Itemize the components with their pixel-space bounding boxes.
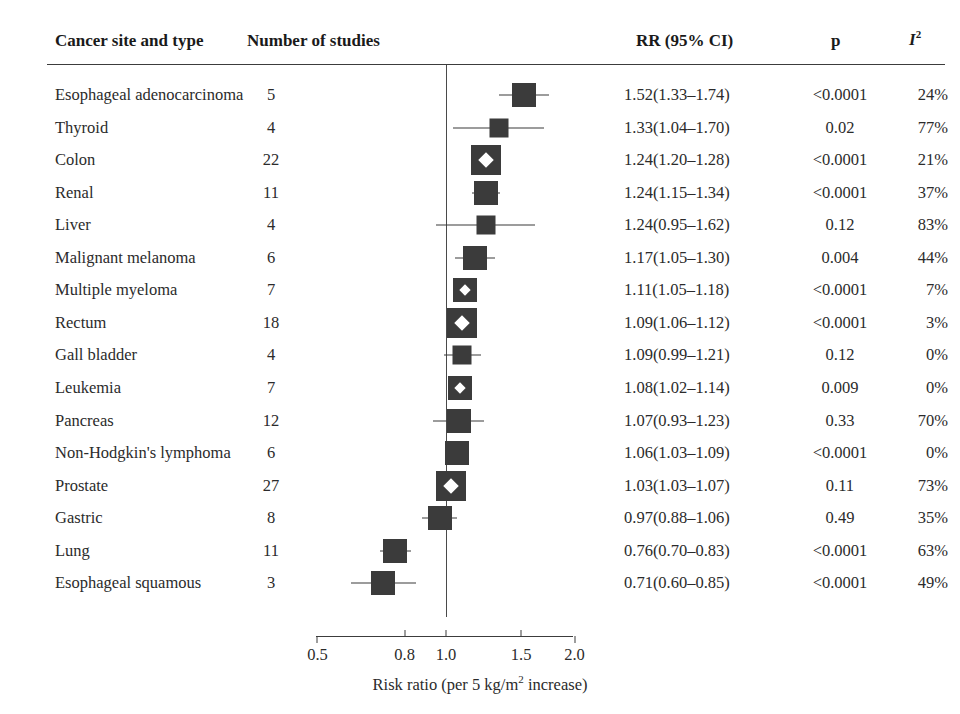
row-p-value: <0.0001 [788,445,892,462]
row-p-value: 0.12 [788,347,892,364]
row-rr-ci-value: 0.97(0.88–1.06) [624,510,788,527]
header-divider-rule [47,64,945,65]
x-axis-tick-label: 0.5 [307,645,328,665]
x-axis-tick [404,630,405,637]
x-axis-caption-pre: Risk ratio (per 5 kg/m [373,675,519,694]
header-number-studies: Number of studies [247,31,380,51]
row-label-cancer-site: Esophageal squamous [55,575,201,592]
point-estimate-marker [489,118,508,137]
point-estimate-marker [512,83,536,107]
row-p-value: <0.0001 [788,315,892,332]
row-rr-ci-value: 1.09(0.99–1.21) [624,347,788,364]
point-estimate-marker [476,216,495,235]
x-axis-tick-label: 1.0 [436,645,457,665]
row-i-squared-value: 49% [890,575,948,592]
row-number-of-studies: 18 [226,315,316,332]
x-axis-caption-post: increase) [524,675,588,694]
row-label-cancer-site: Gall bladder [55,347,137,364]
row-number-of-studies: 6 [226,445,316,462]
row-label-cancer-site: Gastric [55,510,103,527]
row-rr-ci-value: 1.24(1.20–1.28) [624,152,788,169]
row-rr-ci-value: 1.06(1.03–1.09) [624,445,788,462]
row-rr-ci-value: 1.33(1.04–1.70) [624,119,788,136]
x-axis-line [316,636,573,637]
row-rr-ci-value: 0.76(0.70–0.83) [624,542,788,559]
row-rr-ci-value: 1.24(1.15–1.34) [624,184,788,201]
row-i-squared-value: 83% [890,217,948,234]
row-number-of-studies: 12 [226,412,316,429]
row-i-squared-value: 70% [890,412,948,429]
row-p-value: 0.49 [788,510,892,527]
row-i-squared-value: 35% [890,510,948,527]
row-i-squared-value: 77% [890,119,948,136]
row-label-cancer-site: Rectum [55,315,106,332]
row-p-value: 0.004 [788,250,892,267]
point-estimate-marker [474,181,498,205]
row-p-value: <0.0001 [788,152,892,169]
point-estimate-marker [383,539,407,563]
row-label-cancer-site: Leukemia [55,380,121,397]
row-rr-ci-value: 1.09(1.06–1.12) [624,315,788,332]
row-i-squared-value: 37% [890,184,948,201]
row-label-cancer-site: Colon [55,152,95,169]
row-label-cancer-site: Lung [55,542,90,559]
row-rr-ci-value: 1.52(1.33–1.74) [624,87,788,104]
row-label-cancer-site: Esophageal adenocarcinoma [55,87,243,104]
x-axis-tick-label: 2.0 [564,645,585,665]
row-i-squared-value: 24% [890,87,948,104]
row-p-value: 0.02 [788,119,892,136]
x-axis-tick [521,630,522,637]
row-p-value: <0.0001 [788,575,892,592]
row-p-value: 0.009 [788,380,892,397]
row-p-value: <0.0001 [788,87,892,104]
row-number-of-studies: 11 [226,542,316,559]
x-axis-tick-label: 1.5 [511,645,532,665]
row-number-of-studies: 4 [226,217,316,234]
row-label-cancer-site: Prostate [55,477,108,494]
header-rr-ci: RR (95% CI) [636,31,733,51]
header-i-squared: I2 [909,28,921,50]
row-number-of-studies: 7 [226,380,316,397]
row-label-cancer-site: Non-Hodgkin's lymphoma [55,445,231,462]
point-estimate-marker [452,346,471,365]
row-i-squared-value: 73% [890,477,948,494]
row-label-cancer-site: Malignant melanoma [55,250,196,267]
row-number-of-studies: 3 [226,575,316,592]
x-axis-tick [446,630,447,637]
row-label-cancer-site: Pancreas [55,412,114,429]
point-estimate-marker [447,409,471,433]
row-number-of-studies: 6 [226,250,316,267]
row-number-of-studies: 4 [226,119,316,136]
row-i-squared-value: 0% [890,380,948,397]
row-label-cancer-site: Renal [55,184,94,201]
row-p-value: <0.0001 [788,184,892,201]
header-i-squared-letter: I [909,30,916,49]
row-rr-ci-value: 0.71(0.60–0.85) [624,575,788,592]
row-i-squared-value: 63% [890,542,948,559]
forest-plot: Cancer site and type Number of studies R… [0,0,960,714]
row-number-of-studies: 7 [226,282,316,299]
row-label-cancer-site: Thyroid [55,119,108,136]
row-i-squared-value: 44% [890,250,948,267]
point-estimate-marker [445,441,469,465]
row-rr-ci-value: 1.08(1.02–1.14) [624,380,788,397]
x-axis-tick [574,636,575,643]
row-rr-ci-value: 1.11(1.05–1.18) [624,282,788,299]
row-label-cancer-site: Multiple myeloma [55,282,177,299]
row-number-of-studies: 4 [226,347,316,364]
row-rr-ci-value: 1.17(1.05–1.30) [624,250,788,267]
row-i-squared-value: 3% [890,315,948,332]
row-rr-ci-value: 1.24(0.95–1.62) [624,217,788,234]
row-i-squared-value: 0% [890,445,948,462]
row-i-squared-value: 0% [890,347,948,364]
row-rr-ci-value: 1.07(0.93–1.23) [624,412,788,429]
row-p-value: 0.11 [788,477,892,494]
header-cancer-site: Cancer site and type [55,31,203,51]
row-p-value: <0.0001 [788,542,892,559]
header-i-squared-exponent: 2 [916,28,922,40]
row-p-value: 0.12 [788,217,892,234]
x-axis-tick-label: 0.8 [394,645,415,665]
row-number-of-studies: 11 [226,184,316,201]
x-axis-tick [317,636,318,643]
row-number-of-studies: 8 [226,510,316,527]
